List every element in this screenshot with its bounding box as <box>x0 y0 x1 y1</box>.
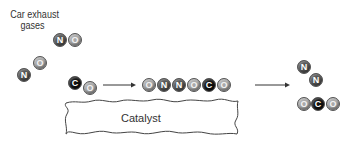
atom-nitrogen: N <box>172 78 186 92</box>
atom-oxygen: O <box>142 78 156 92</box>
atom-carbon: C <box>68 76 82 90</box>
atom-nitrogen: N <box>309 73 323 87</box>
atom-oxygen: O <box>217 78 231 92</box>
atom-oxygen: O <box>187 78 201 92</box>
atom-oxygen: O <box>33 56 47 70</box>
atom-carbon: C <box>202 78 216 92</box>
atom-oxygen: O <box>68 33 82 47</box>
atom-nitrogen: N <box>157 78 171 92</box>
catalyst-label: Catalyst <box>121 112 161 124</box>
atom-carbon: C <box>311 97 325 111</box>
atom-nitrogen: N <box>53 33 67 47</box>
atom-oxygen: O <box>297 97 311 111</box>
atom-oxygen: O <box>83 81 97 95</box>
arrow-right-icon <box>103 83 136 88</box>
atom-nitrogen: N <box>297 60 311 74</box>
arrow-right-icon <box>255 83 290 88</box>
atom-nitrogen: N <box>17 68 31 82</box>
atom-oxygen: O <box>326 97 340 111</box>
